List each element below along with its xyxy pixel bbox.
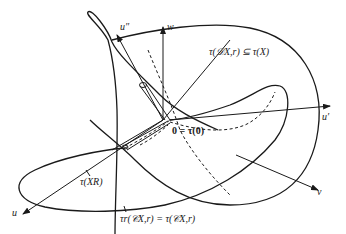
- label-v: v: [317, 186, 322, 197]
- axis-u-prime: [170, 106, 330, 120]
- domain-image-surface: [90, 25, 319, 205]
- hidden-curves: [125, 50, 275, 195]
- label-u: u: [12, 207, 17, 218]
- axis-v: [236, 155, 318, 190]
- label-u-double-prime: u″: [120, 21, 130, 32]
- label-origin: 0 = τ(0): [172, 125, 204, 137]
- label-domain-image: τ(𝒟X,r) ⊆ τ(X): [209, 46, 270, 58]
- axis-u-double-prime: [117, 35, 163, 120]
- diagram-canvas: u″ w u′ u v τ(𝒟X,r) ⊆ τ(X) 0 = τ(0) τ(XR…: [0, 0, 346, 234]
- label-XR-image: τ(XR): [80, 176, 103, 188]
- label-u-prime: u′: [322, 111, 330, 122]
- label-w: w: [167, 21, 174, 32]
- label-C-image: τr(𝒞X,r) = τ(𝒞X,r): [120, 213, 196, 225]
